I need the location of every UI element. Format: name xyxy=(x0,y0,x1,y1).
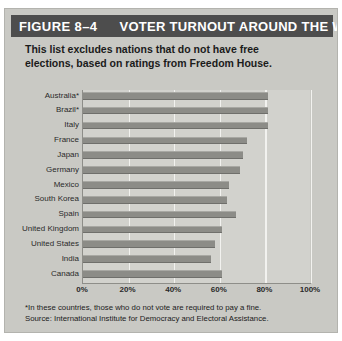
figure-panel: FIGURE 8–4 VOTER TURNOUT AROUND THE WORL… xyxy=(4,8,338,333)
bar-row xyxy=(83,120,310,135)
bar-japan xyxy=(83,151,243,159)
bar-row xyxy=(83,238,310,253)
bar-row xyxy=(83,194,310,209)
bar-unitedstates xyxy=(83,240,215,248)
tick-label-100: 100% xyxy=(300,285,320,294)
bar-mexico xyxy=(83,181,229,189)
category-label: Japan xyxy=(7,150,79,159)
figure-title: VOTER TURNOUT AROUND THE WORLD xyxy=(119,19,338,34)
bar-row xyxy=(83,149,310,164)
tick-label-40: 40% xyxy=(165,285,181,294)
bar-row xyxy=(83,253,310,268)
category-label: South Korea xyxy=(7,194,79,203)
chart-plot-area xyxy=(82,90,310,283)
gridline-100 xyxy=(311,90,312,283)
category-label: Italy xyxy=(7,120,79,129)
figure-subtitle: This list excludes nations that do not h… xyxy=(25,43,325,70)
tick-label-0: 0% xyxy=(76,285,88,294)
bar-row xyxy=(83,179,310,194)
figure-header: FIGURE 8–4 VOTER TURNOUT AROUND THE WORL… xyxy=(11,15,333,37)
tick-label-60: 60% xyxy=(211,285,227,294)
bar-row xyxy=(83,209,310,224)
figure-notes: *In these countries, those who do not vo… xyxy=(25,303,333,324)
category-label: Mexico xyxy=(7,180,79,189)
value-axis-labels: 0%20%40%60%80%100% xyxy=(5,285,338,297)
category-label: Australia* xyxy=(7,91,79,100)
bar-row xyxy=(83,90,310,105)
category-label: India xyxy=(7,254,79,263)
source-text: Source: International Institute for Demo… xyxy=(25,314,333,325)
bar-france xyxy=(83,137,247,145)
category-label: United Kingdom xyxy=(7,224,79,233)
bar-canada xyxy=(83,270,222,278)
footnote-text: *In these countries, those who do not vo… xyxy=(25,303,333,314)
bar-row xyxy=(83,135,310,150)
tick-label-80: 80% xyxy=(256,285,272,294)
bar-rows xyxy=(83,90,310,283)
bar-unitedkingdom xyxy=(83,226,222,234)
category-label: France xyxy=(7,135,79,144)
category-label: Brazil* xyxy=(7,105,79,114)
figure-number-label: FIGURE 8–4 xyxy=(11,19,97,34)
bar-row xyxy=(83,268,310,283)
bar-row xyxy=(83,224,310,239)
category-label: United States xyxy=(7,239,79,248)
bar-australia xyxy=(83,92,268,100)
category-label: Spain xyxy=(7,209,79,218)
subtitle-line-1: This list excludes nations that do not h… xyxy=(25,43,325,57)
subtitle-line-2: elections, based on ratings from Freedom… xyxy=(25,57,325,71)
bar-row xyxy=(83,164,310,179)
category-label: Germany xyxy=(7,165,79,174)
tick-label-20: 20% xyxy=(120,285,136,294)
bar-italy xyxy=(83,122,268,130)
bar-india xyxy=(83,255,211,263)
bar-brazil xyxy=(83,107,268,115)
category-label: Canada xyxy=(7,269,79,278)
category-axis-labels: Australia*Brazil*ItalyFranceJapanGermany… xyxy=(5,90,79,283)
bar-spain xyxy=(83,211,236,219)
bar-germany xyxy=(83,166,240,174)
bar-southkorea xyxy=(83,196,227,204)
bar-row xyxy=(83,105,310,120)
